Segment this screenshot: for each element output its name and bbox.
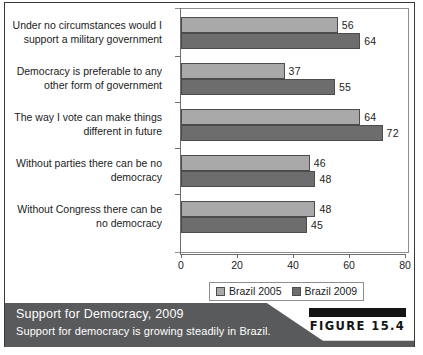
value-axis-tick-label: 0 bbox=[178, 259, 184, 271]
bar-row: 48 bbox=[181, 201, 405, 217]
figure-number-badge: FIGURE 15.4 bbox=[309, 308, 406, 333]
category-label: Without parties there can be nodemocracy bbox=[2, 157, 162, 184]
category-label-line: other form of government bbox=[2, 79, 162, 93]
category-label-line: Without Congress there can be bbox=[2, 203, 162, 217]
figure-container: Under no circumstances would Isupport a … bbox=[0, 0, 423, 355]
legend-label: Brazil 2009 bbox=[305, 285, 358, 297]
bar-brazil-2009 bbox=[181, 79, 335, 95]
bar-value-label: 72 bbox=[387, 127, 399, 139]
bar-value-label: 64 bbox=[364, 35, 376, 47]
figure-subtitle: Support for democracy is growing steadil… bbox=[16, 325, 271, 337]
legend-label: Brazil 2005 bbox=[229, 285, 282, 297]
bar-brazil-2009 bbox=[181, 217, 307, 233]
bar-row: 45 bbox=[181, 217, 405, 233]
bar-row: 72 bbox=[181, 125, 405, 141]
category-label-line: different in future bbox=[2, 125, 162, 139]
category-label-line: support a military government bbox=[2, 33, 162, 47]
value-axis-tick bbox=[405, 254, 406, 258]
value-axis-tick-label: 20 bbox=[231, 259, 243, 271]
bar-row: 46 bbox=[181, 155, 405, 171]
value-axis-tick-label: 80 bbox=[399, 259, 411, 271]
category-label-line: Under no circumstances would I bbox=[2, 19, 162, 33]
bar-brazil-2009 bbox=[181, 125, 383, 141]
category-label-line: The way I vote can make things bbox=[2, 111, 162, 125]
bar-brazil-2005 bbox=[181, 201, 315, 217]
category-label: Democracy is preferable to anyother form… bbox=[2, 65, 162, 92]
value-axis-tick bbox=[181, 254, 182, 258]
bar-value-label: 46 bbox=[314, 157, 326, 169]
bar-row: 64 bbox=[181, 109, 405, 125]
category-label-line: democracy bbox=[2, 171, 162, 185]
value-axis-tick bbox=[349, 254, 350, 258]
bar-value-label: 48 bbox=[319, 203, 331, 215]
figure-title: Support for Democracy, 2009 bbox=[16, 307, 184, 321]
legend-item: Brazil 2009 bbox=[292, 285, 358, 297]
figure-number-label: FIGURE 15.4 bbox=[309, 319, 406, 333]
legend-swatch-icon bbox=[292, 287, 301, 296]
bar-brazil-2009 bbox=[181, 33, 360, 49]
category-label-line: Without parties there can be no bbox=[2, 157, 162, 171]
value-axis-tick-label: 60 bbox=[343, 259, 355, 271]
bar-value-label: 56 bbox=[342, 19, 354, 31]
bar-value-label: 48 bbox=[319, 173, 331, 185]
bar-value-label: 37 bbox=[289, 65, 301, 77]
value-axis-tick bbox=[237, 254, 238, 258]
legend-item: Brazil 2005 bbox=[216, 285, 282, 297]
value-axis-tick bbox=[293, 254, 294, 258]
value-axis-tick-label: 40 bbox=[287, 259, 299, 271]
category-label-line: Democracy is preferable to any bbox=[2, 65, 162, 79]
bar-row: 56 bbox=[181, 17, 405, 33]
figure-badge-bar bbox=[309, 308, 406, 317]
category-label: Without Congress there can beno democrac… bbox=[2, 203, 162, 230]
category-label: The way I vote can make thingsdifferent … bbox=[2, 111, 162, 138]
category-label: Under no circumstances would Isupport a … bbox=[2, 19, 162, 46]
bar-value-label: 55 bbox=[339, 81, 351, 93]
plot-area: 56643755647246484845 bbox=[181, 9, 405, 252]
bar-row: 64 bbox=[181, 33, 405, 49]
legend-swatch-icon bbox=[216, 287, 225, 296]
bar-brazil-2009 bbox=[181, 171, 315, 187]
category-label-line: no democracy bbox=[2, 217, 162, 231]
chart-card: Under no circumstances would Isupport a … bbox=[5, 3, 414, 301]
bar-brazil-2005 bbox=[181, 155, 310, 171]
chart-legend: Brazil 2005Brazil 2009 bbox=[209, 282, 364, 301]
bar-value-label: 64 bbox=[364, 111, 376, 123]
bar-value-label: 45 bbox=[311, 219, 323, 231]
bar-row: 48 bbox=[181, 171, 405, 187]
bar-brazil-2005 bbox=[181, 17, 338, 33]
caption-banner: Support for Democracy, 2009 Support for … bbox=[5, 303, 414, 347]
bar-brazil-2005 bbox=[181, 109, 360, 125]
bar-row: 55 bbox=[181, 79, 405, 95]
bar-brazil-2005 bbox=[181, 63, 285, 79]
bar-row: 37 bbox=[181, 63, 405, 79]
